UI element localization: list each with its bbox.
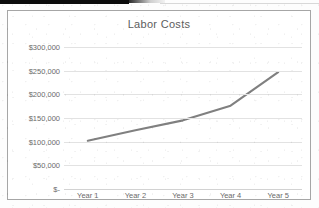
y-axis-tick-labels: $300,000$250,000$200,000$150,000$100,000… — [16, 47, 60, 189]
gridline — [64, 47, 302, 48]
y-axis-tick-label: $250,000 — [29, 66, 60, 75]
x-axis-tick-label: Year 4 — [220, 191, 241, 200]
y-axis-tick-label: $200,000 — [29, 90, 60, 99]
gridline — [64, 142, 302, 143]
y-axis-tick-label: $300,000 — [29, 43, 60, 52]
x-axis-tick-label: Year 3 — [172, 191, 193, 200]
y-axis-tick-label: $50,000 — [33, 161, 60, 170]
y-axis-tick-label: $- — [53, 185, 60, 194]
x-axis-tick-labels: Year 1Year 2Year 3Year 4Year 5 — [64, 191, 302, 205]
gridline — [64, 71, 302, 72]
y-axis-tick-label: $150,000 — [29, 114, 60, 123]
gridline — [64, 118, 302, 119]
chart-frame: Labor Costs $300,000$250,000$200,000$150… — [7, 10, 311, 200]
top-edge-dark-band — [0, 0, 129, 4]
x-axis-tick-label: Year 5 — [267, 191, 288, 200]
gridline — [64, 165, 302, 166]
top-edge-hairline — [160, 3, 319, 4]
x-axis-tick-label: Year 1 — [77, 191, 98, 200]
chart-title: Labor Costs — [8, 18, 310, 30]
gridline — [64, 94, 302, 95]
x-axis-tick-label: Year 2 — [125, 191, 146, 200]
plot-area — [64, 47, 302, 189]
gridline — [64, 189, 302, 190]
y-axis-tick-label: $100,000 — [29, 137, 60, 146]
chart-screenshot: Labor Costs $300,000$250,000$200,000$150… — [0, 0, 319, 208]
